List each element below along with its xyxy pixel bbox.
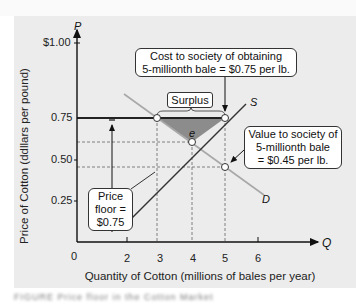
x-tick-5: 5 — [222, 252, 228, 264]
x-tick-2: 2 — [124, 252, 130, 264]
x-tick-6: 6 — [255, 252, 261, 264]
supply-label: S — [250, 96, 257, 108]
point-q5-supply — [222, 115, 229, 122]
y-axis-label: Price of Cotton (ddllars per pound) — [18, 56, 30, 256]
point-q5-demand — [222, 164, 229, 171]
point-q3 — [154, 115, 161, 122]
figure-caption: FIGURE Price floor in the Cotton Market — [14, 292, 214, 302]
y-tick-025: 0.25 — [51, 194, 72, 206]
equilibrium-label: e — [189, 127, 195, 139]
equilibrium-point — [189, 139, 196, 146]
value-callout: Value to society of 5-millionth bale = $… — [244, 126, 342, 169]
price-floor-callout: Price floor = $0.75 — [88, 188, 133, 231]
x-tick-3: 3 — [157, 252, 163, 264]
y-tick-075: 0.75 — [51, 111, 72, 123]
demand-label: D — [262, 193, 270, 205]
surplus-label: Surplus — [167, 92, 213, 108]
y-tick-100: $1.00 — [43, 36, 71, 48]
cost-callout: Cost to society of obtaining 5-millionth… — [135, 48, 297, 77]
y-tick-050: 0.50 — [51, 153, 72, 165]
q-axis-letter: Q — [322, 236, 331, 250]
x-axis-label: Quantity of Cotton (millions of bales pe… — [60, 270, 340, 282]
p-axis-letter: P — [74, 20, 81, 32]
x-tick-4: 4 — [190, 252, 196, 264]
x-tick-0: 0 — [71, 250, 77, 262]
